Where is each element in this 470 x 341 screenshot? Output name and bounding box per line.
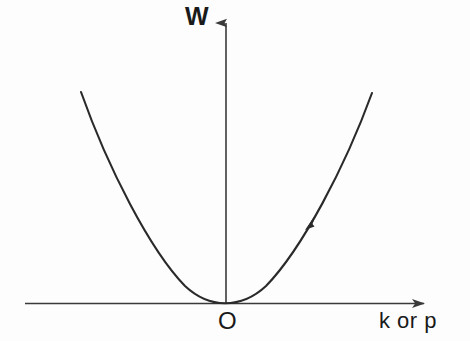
- parabola-figure: W O k or p: [0, 0, 470, 341]
- x-axis-label: k or p: [379, 310, 437, 332]
- plot-canvas: [0, 0, 470, 341]
- y-axis-label: W: [185, 4, 209, 29]
- origin-label: O: [218, 309, 237, 333]
- curve-direction-arrow-icon: [305, 214, 316, 230]
